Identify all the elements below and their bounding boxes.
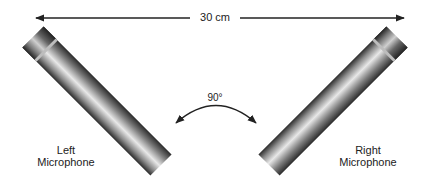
distance-label: 30 cm	[190, 11, 240, 23]
angle-label: 90°	[200, 92, 230, 103]
right-microphone-label-line2: Microphone	[332, 156, 404, 168]
left-microphone-label-line1: Left	[30, 144, 102, 156]
angle-arc-arrow	[176, 106, 256, 124]
left-microphone-label-line2: Microphone	[30, 156, 102, 168]
right-microphone-label-line1: Right	[332, 144, 404, 156]
right-microphone-label: Right Microphone	[332, 144, 404, 168]
left-microphone-label: Left Microphone	[30, 144, 102, 168]
